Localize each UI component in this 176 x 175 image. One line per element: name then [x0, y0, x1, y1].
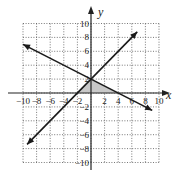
y-tick-label: −6 [79, 130, 89, 140]
y-tick-label: −2 [79, 102, 89, 112]
y-tick-label: −4 [79, 116, 89, 126]
y-tick-label: 2 [85, 74, 90, 84]
x-tick-label: 2 [102, 96, 107, 106]
line-1 [27, 32, 137, 145]
x-tick-label: 10 [155, 96, 165, 106]
graph: −10−8−6−4−2246810108642−2−4−6−8−10 x y [0, 0, 176, 175]
x-tick-label: 4 [116, 96, 121, 106]
y-axis-label: y [97, 5, 104, 19]
x-tick-label: −10 [16, 96, 31, 106]
x-tick-label: 8 [143, 96, 148, 106]
y-axis-arrow-icon [88, 6, 94, 14]
y-tick-label: 10 [80, 19, 90, 29]
y-tick-label: 8 [85, 32, 90, 42]
x-tick-label: −8 [32, 96, 42, 106]
x-tick-label: 6 [130, 96, 135, 106]
x-axis-label: x [165, 88, 172, 102]
y-tick-label: −10 [75, 158, 90, 168]
y-tick-label: 6 [85, 46, 90, 56]
x-tick-label: −4 [59, 96, 69, 106]
y-tick-label: −8 [79, 144, 89, 154]
x-tick-label: −6 [45, 96, 55, 106]
y-tick-label: 4 [85, 60, 90, 70]
